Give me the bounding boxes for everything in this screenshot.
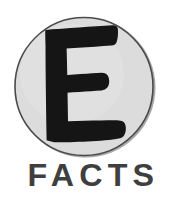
facts-logo: FACTS: [0, 0, 181, 197]
wordmark-text: FACTS: [22, 160, 159, 191]
letter-e-in-circle-icon: [0, 0, 181, 160]
emblem-container: [0, 0, 181, 160]
wordmark: FACTS: [0, 158, 181, 192]
